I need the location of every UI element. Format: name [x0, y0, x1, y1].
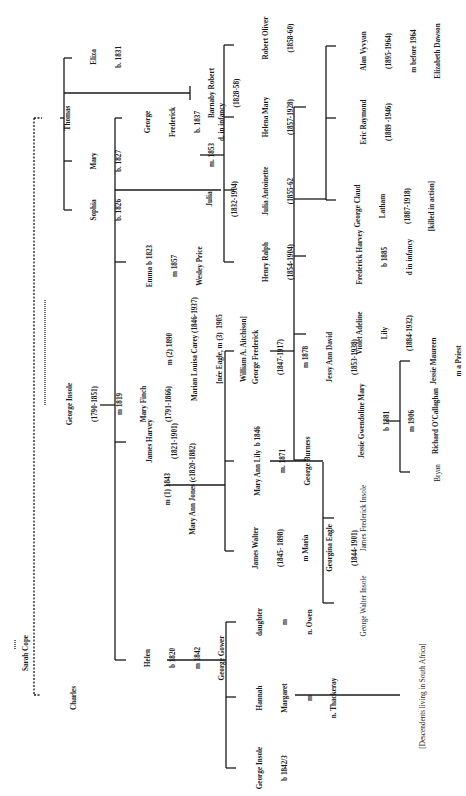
spouse-text: Jessy Ann David [326, 322, 334, 392]
name-text: Barnaby Robert [208, 60, 216, 126]
person-sarah-cope: Sarah Cope [6, 623, 47, 683]
name-text-2: Lily [381, 300, 389, 366]
dates-text: b 1885 [381, 222, 389, 292]
spouse-text: Elizabeth Dawson [434, 12, 442, 90]
marriage-text: m 1878 [302, 322, 310, 392]
spouse-text: Marian Louisa Carey (1846-1937) [191, 274, 199, 424]
marriage-text: m [281, 600, 289, 644]
person-jessie-maureen: Jessie Maureen m a Priest [414, 330, 466, 392]
name-text: James Walter [252, 518, 260, 578]
person-hannah-margaret: Hannah Margaret m n. Thackeray [240, 668, 355, 728]
spouse-text: n. Thackeray [330, 668, 338, 728]
marriage-text: m [306, 668, 314, 728]
name-text: Sarah Cope [22, 623, 30, 683]
marriage-text: m 1819 [116, 364, 124, 444]
person-robert-oliver: Robert Oliver (1858-60) [246, 8, 312, 68]
name-text: Helen [144, 630, 152, 686]
spouse-text: Georgina Eagle [326, 518, 334, 578]
name-text: George Walter Insole [360, 564, 368, 648]
person-julia-antoinette: Julia Antoinette (1855-62 [246, 156, 312, 226]
dates-text: b. 1826 [115, 192, 123, 228]
spouse-text: n. Owen [306, 600, 314, 644]
person-sophia: Sophia b. 1826 [74, 192, 140, 228]
person-helen: Helen b 1820 m 1842 George Gower [128, 630, 243, 686]
dates-text: b 1842/3 [281, 740, 289, 796]
spouse-text: George Gower [218, 630, 226, 686]
person-helena-mary: Helena Mary (1857-1928) [246, 88, 312, 146]
dates-text: (1828-58) [233, 60, 241, 126]
name-text: George Insole [256, 740, 264, 796]
person-mary: Mary b. 1827 [74, 144, 140, 178]
note-text: [Descendents living in South Africa] [419, 632, 427, 760]
spouse-text: Mary Ann Jones (c1820-1882) [189, 424, 197, 554]
person-thomas: Thomas [48, 97, 89, 139]
dates-text: (1832-1904) [231, 176, 239, 222]
name-text: Charles [70, 678, 78, 718]
dates-text: b 1881 [383, 376, 391, 466]
dates-text: (1845- 1898) [277, 518, 285, 578]
person-daughter-owen: daughter m n. Owen [240, 600, 330, 644]
person-george-insole-1842: George Insole b 1842/3 [240, 740, 306, 796]
name-text-2: Margaret [281, 668, 289, 728]
name-text: Mary Ann Lily b 1846 [254, 422, 262, 500]
note-text: [née Eagle, m (3) 1905 [216, 274, 224, 424]
dates-text: (1895-1964) [385, 12, 393, 90]
dates-text: (1854-1904) [287, 234, 295, 290]
dates-text: (1855-62 [287, 156, 295, 226]
name-text: Bryan [434, 458, 442, 488]
note-text: d in infancy [406, 222, 414, 292]
marriage-text: m 1842 [194, 630, 202, 686]
name-text: Alan Vyvyan [360, 12, 368, 90]
marriage-text: m. 1871 [279, 422, 287, 500]
name-text: Eliza [90, 42, 98, 72]
marriage-julia-barnaby: m. 1853 [192, 140, 233, 170]
name-text: Eric Raymond [360, 94, 368, 150]
marriage-text: m Maria [302, 518, 310, 578]
person-george-walter-insole: George Walter Insole [344, 564, 385, 648]
name-text-2: Frederick [169, 98, 177, 146]
dates-text: (1858-60) [287, 8, 295, 68]
name-text: Julia Antoinette [262, 156, 270, 226]
dates-text: (1790-1851) [91, 364, 99, 444]
name-text: Jessie Maureen [430, 330, 438, 392]
name-text: Mary [90, 144, 98, 178]
name-text: Henry Ralph [262, 234, 270, 290]
dates-text: (1884-1932) [406, 300, 414, 366]
person-bryan: Bryan [418, 458, 459, 488]
name-text: Hannah [256, 668, 264, 728]
person-eliza: Eliza b. 1831 [74, 42, 140, 72]
marriage-text: m before 1964 [410, 12, 418, 90]
name-text: Thomas [64, 97, 72, 139]
name-text: Helena Mary [262, 88, 270, 146]
name-text: James Frederick Insole [360, 476, 368, 560]
name-text: George Frederick [252, 322, 260, 392]
name-text: Frederick Harvey [356, 222, 364, 292]
person-james-frederick-insole: James Frederick Insole [344, 476, 385, 560]
name-text: Jessie Gwendoline Mary [358, 376, 366, 466]
person-mary-ann-lily: Mary Ann Lily b 1846 m. 1871 George Burn… [238, 422, 328, 500]
spouse-text: George Burness [304, 422, 312, 500]
person-henry-ralph: Henry Ralph (1854-1904) [246, 234, 312, 290]
person-frederick-harvey: Frederick Harvey b 1885 d in infancy [340, 222, 430, 292]
dates-text: (1857-1928) [287, 88, 295, 146]
name-text: George Insole [66, 364, 74, 444]
name-text: daughter [256, 600, 264, 644]
name-text: Sophia [90, 192, 98, 228]
spouse-mary-ann-jones: m (1) 1843 Mary Ann Jones (c1820-1882) [148, 424, 214, 554]
dates-text: b. 1827 [115, 144, 123, 178]
dates-text: b. 1831 [115, 42, 123, 72]
marriage-text: m (2) 1890 [166, 274, 174, 424]
note-descendants-south-africa: [Descendents living in South Africa] [403, 632, 444, 760]
person-alan-vyvyan: Alan Vyvyan (1895-1964) m before 1964 El… [344, 12, 459, 90]
dates-text: (1847-1917) [277, 322, 285, 392]
dates-text: (1889 -1946) [385, 94, 393, 150]
person-charles: Charles [54, 678, 95, 718]
name-text: Robert Oliver [262, 8, 270, 68]
dates-text: b 1820 [169, 630, 177, 686]
name-text: George [144, 98, 152, 146]
marriage-text: m. 1853 [208, 140, 216, 170]
name-text: Julia [206, 176, 214, 222]
marriage-text: m (1) 1843 [164, 424, 172, 554]
person-eric-raymond: Eric Raymond (1889 -1946) [344, 94, 410, 150]
